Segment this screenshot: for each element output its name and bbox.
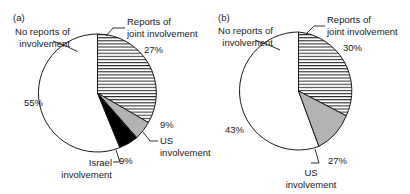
pie-b-value-us: 27% xyxy=(328,155,347,166)
pie-b-value-no-reports: 43% xyxy=(225,124,244,135)
pie-a-label-us-line2: involvement xyxy=(160,147,211,159)
pie-b-label-us: US involvement xyxy=(249,167,373,190)
pie-a-value-joint: 27% xyxy=(144,44,163,55)
pie-a-label-israel-line1: Israel xyxy=(28,157,112,169)
pie-a-label-no-reports: No reports of involvement xyxy=(0,26,70,49)
pie-a-label-israel: Israel involvement xyxy=(28,157,112,180)
pie-a-label-joint: Reports of joint involvement xyxy=(127,16,198,39)
pie-a-label-israel-line2: involvement xyxy=(28,169,112,181)
pie-b-label-no-reports: No reports of involvement xyxy=(205,25,273,48)
pie-b-label-us-line2: involvement xyxy=(249,179,373,191)
pie-b-label-joint-line1: Reports of xyxy=(327,14,398,26)
pie-a-label-joint-line2: joint involvement xyxy=(127,28,198,40)
pie-chart-figure: (a) No reports of inv xyxy=(0,0,410,194)
pie-b-value-joint: 30% xyxy=(343,42,362,53)
pie-a-value-no-reports: 55% xyxy=(24,97,43,108)
pie-a-label-no-reports-line1: No reports of xyxy=(0,26,70,38)
pie-a-label-us: US involvement xyxy=(160,135,211,158)
pie-b-label-us-line1: US xyxy=(249,167,373,179)
pie-a-label-us-line1: US xyxy=(160,135,211,147)
pie-b-label-joint: Reports of joint involvement xyxy=(327,14,398,37)
chart-panel-b: (b) No reports of involvement xyxy=(205,0,410,194)
pie-b-label-no-reports-line1: No reports of xyxy=(205,25,273,37)
pie-b-label-joint-line2: joint involvement xyxy=(327,26,398,38)
pie-b-leader-joint xyxy=(306,26,325,34)
pie-a-value-us: 9% xyxy=(160,119,174,130)
pie-a-label-joint-line1: Reports of xyxy=(127,16,198,28)
chart-panel-a: (a) No reports of inv xyxy=(0,0,205,194)
pie-a-label-no-reports-line2: involvement xyxy=(0,38,70,50)
pie-a-value-israel: 9% xyxy=(119,155,133,166)
pie-b-leader-us xyxy=(311,149,319,163)
pie-b-label-no-reports-line2: involvement xyxy=(205,37,273,49)
pie-a-leader-us xyxy=(143,132,158,141)
